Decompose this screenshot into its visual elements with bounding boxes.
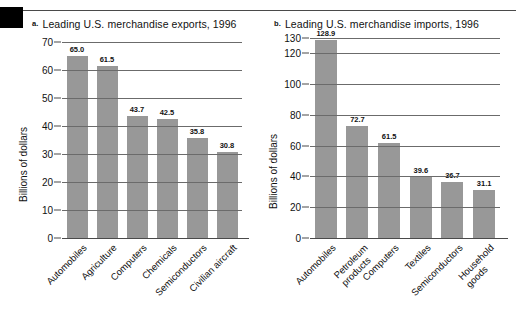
bar-value-label: 31.1	[477, 179, 492, 188]
y-tick-label-b-0: 0	[295, 233, 310, 244]
y-tick-label-a-60: 60	[42, 65, 62, 76]
bar: 30.8	[217, 152, 238, 238]
figure-root: a.Leading U.S. merchandise exports, 1996…	[0, 0, 516, 330]
y-tick-label-a-10: 10	[42, 205, 62, 216]
y-tick-label-b-60: 60	[290, 140, 310, 151]
gridline-a-30	[62, 154, 242, 155]
gridline-b-60	[310, 146, 500, 147]
panel-b-letter: b.	[274, 19, 281, 28]
bar-value-label: 61.5	[100, 55, 115, 64]
panel-b-plot-area: 128.972.761.539.636.731.1 AutomobilesPet…	[310, 38, 500, 238]
bar: 43.7	[127, 116, 148, 238]
bar: 61.5	[97, 66, 118, 238]
gridline-b-130	[310, 38, 500, 39]
bar: 35.8	[187, 138, 208, 238]
y-tick-label-b-20: 20	[290, 202, 310, 213]
y-tick-label-a-70: 70	[42, 37, 62, 48]
bar-column: 43.7	[122, 42, 152, 238]
bar-value-label: 72.7	[350, 115, 365, 124]
panel-a-title-text: Leading U.S. merchandise exports, 1996	[42, 18, 236, 30]
bar-column: 61.5	[92, 42, 122, 238]
bar-value-label: 30.8	[220, 141, 235, 150]
gridline-b-0	[310, 238, 508, 239]
bar-value-label: 61.5	[382, 132, 397, 141]
bar-value-label: 36.7	[445, 171, 460, 180]
panel-a-y-axis-label: Billions of dollars	[18, 52, 29, 202]
gridline-b-100	[310, 84, 500, 85]
bar: 72.7	[346, 126, 368, 238]
y-tick-label-b-100: 100	[284, 79, 310, 90]
y-tick-label-b-120: 120	[284, 48, 310, 59]
bar: 36.7	[441, 182, 463, 238]
bar: 128.9	[315, 40, 337, 238]
gridline-b-80	[310, 115, 500, 116]
y-tick-label-a-40: 40	[42, 121, 62, 132]
gridline-a-10	[62, 210, 242, 211]
y-tick-label-a-20: 20	[42, 177, 62, 188]
bar-value-label: 65.0	[70, 45, 85, 54]
bar: 31.1	[473, 190, 495, 238]
y-tick-label-a-50: 50	[42, 93, 62, 104]
y-tick-label-b-80: 80	[290, 109, 310, 120]
bar-value-label: 42.5	[160, 108, 175, 117]
bar-value-label: 35.8	[190, 127, 205, 136]
gridline-a-0	[62, 238, 249, 239]
bar: 61.5	[378, 143, 400, 238]
panel-b-title: b.Leading U.S. merchandise imports, 1996	[274, 18, 479, 30]
bar-value-label: 128.9	[316, 29, 335, 38]
gridline-b-20	[310, 207, 500, 208]
chart-panel-a: a.Leading U.S. merchandise exports, 1996…	[0, 0, 258, 330]
gridline-a-60	[62, 70, 242, 71]
y-tick-label-b-130: 130	[284, 33, 310, 44]
x-category-label: Automobiles	[293, 242, 338, 287]
gridline-a-70	[62, 42, 242, 43]
x-category-label: Automobiles	[44, 242, 89, 287]
bar-column: 65.0	[62, 42, 92, 238]
y-tick-label-b-40: 40	[290, 171, 310, 182]
panel-b-y-axis-label: Billions of dollars	[268, 44, 279, 209]
y-tick-label-a-30: 30	[42, 149, 62, 160]
y-tick-label-a-0: 0	[47, 233, 62, 244]
panel-a-plot-area: 65.061.543.742.535.830.8 AutomobilesAgri…	[62, 42, 242, 238]
gridline-b-120	[310, 53, 500, 54]
panel-b-title-text: Leading U.S. merchandise imports, 1996	[285, 18, 479, 30]
panel-a-letter: a.	[32, 19, 38, 28]
gridline-a-50	[62, 98, 242, 99]
panel-b-category-labels: AutomobilesPetroleumproductsComputersTex…	[310, 238, 500, 328]
bar-column: 30.8	[212, 42, 242, 238]
gridline-a-20	[62, 182, 242, 183]
bar-column: 42.5	[152, 42, 182, 238]
x-category-label: Textiles	[402, 242, 432, 272]
gridline-b-40	[310, 176, 500, 177]
chart-panel-b: b.Leading U.S. merchandise imports, 1996…	[258, 0, 516, 330]
bar: 42.5	[157, 119, 178, 238]
panel-a-bars: 65.061.543.742.535.830.8	[62, 42, 242, 238]
gridline-a-40	[62, 126, 242, 127]
bar-column: 35.8	[182, 42, 212, 238]
bar-value-label: 39.6	[413, 166, 428, 175]
panel-a-title: a.Leading U.S. merchandise exports, 1996	[32, 18, 237, 30]
bar-value-label: 43.7	[130, 105, 145, 114]
panel-a-category-labels: AutomobilesAgricultureComputersChemicals…	[62, 238, 242, 328]
